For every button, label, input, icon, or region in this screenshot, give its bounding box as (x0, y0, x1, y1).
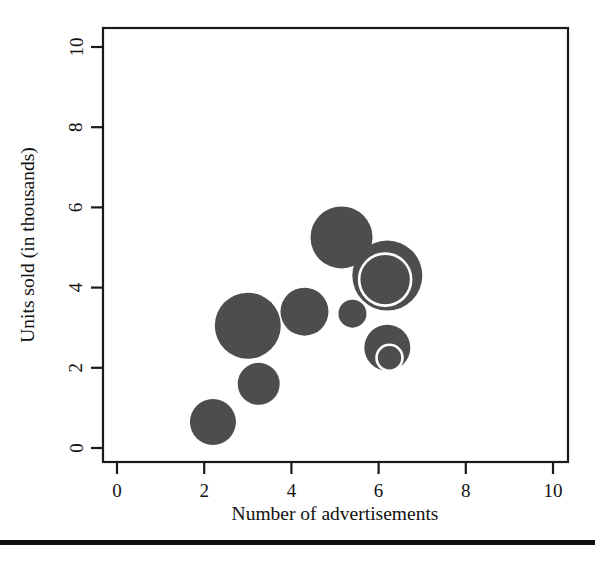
x-tick-label: 4 (287, 480, 297, 501)
bubble-series (190, 206, 422, 444)
x-tick-label: 8 (461, 480, 471, 501)
bubble-point-5 (338, 300, 366, 328)
bubble-point-4 (280, 288, 328, 336)
x-axis-title: Number of advertisements (232, 503, 439, 524)
y-tick-label: 6 (66, 203, 87, 213)
bubble-point-8 (364, 325, 410, 371)
bubble-point-1 (190, 399, 236, 445)
y-tick-label: 0 (66, 443, 87, 453)
x-tick-label: 2 (199, 480, 209, 501)
bubble-point-3 (215, 293, 281, 359)
x-axis-ticks: 0246810 (112, 462, 562, 501)
y-tick-label: 10 (66, 38, 87, 57)
chart-page: 0246810 0246810 Number of advertisements… (0, 0, 595, 563)
y-axis-title: Units sold (in thousands) (17, 147, 39, 343)
bubble-point-2 (238, 363, 280, 405)
y-tick-label: 4 (66, 282, 87, 292)
bubble-chart: 0246810 0246810 Number of advertisements… (0, 0, 595, 563)
footer-divider (0, 540, 595, 545)
y-axis-ticks: 0246810 (66, 38, 104, 453)
x-tick-label: 6 (374, 480, 384, 501)
y-tick-label: 2 (66, 363, 87, 373)
x-tick-label: 10 (544, 480, 563, 501)
x-tick-label: 0 (112, 480, 122, 501)
y-tick-label: 8 (66, 122, 87, 132)
